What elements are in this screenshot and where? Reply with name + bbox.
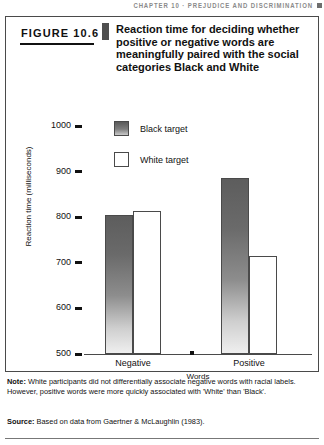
x-axis-line [84, 354, 312, 355]
square-marker-icon [317, 3, 322, 8]
y-tick-label: 1000 [31, 120, 71, 130]
bottom-rule [5, 438, 319, 439]
y-tick-mark [75, 216, 82, 219]
figure-source: Source: Based on data from Gaertner & Mc… [7, 417, 317, 427]
y-tick-label: 800 [31, 211, 71, 221]
y-tick-mark [75, 353, 82, 356]
bar-positive-black [221, 178, 249, 354]
y-tick-mark [75, 307, 82, 310]
legend-label: White target [140, 155, 189, 165]
figure-page: CHAPTER 10 · PREJUDICE AND DISCRIMINATIO… [0, 0, 324, 445]
source-prefix: Source: [7, 417, 35, 426]
bar-positive-white [249, 256, 277, 354]
chart-legend: Black targetWhite target [114, 118, 189, 180]
y-tick-label: 500 [31, 348, 71, 358]
x-tick-label: Positive [214, 358, 284, 368]
note-text: White participants did not differentiall… [7, 377, 296, 396]
source-text: Based on data from Gaertner & McLaughlin… [35, 417, 205, 426]
bar-negative-white [133, 211, 161, 354]
y-tick-label: 900 [31, 166, 71, 176]
y-tick-mark [75, 261, 82, 264]
x-tick-label: Negative [98, 358, 168, 368]
legend-label: Black target [140, 124, 188, 134]
figure-box: FIGURE 10.6 Reaction time for deciding w… [5, 16, 319, 372]
legend-swatch-icon [114, 121, 129, 136]
y-axis-title: Reaction time (milliseconds) [24, 127, 33, 267]
figure-note: Note: White participants did not differe… [7, 377, 317, 397]
legend-item: White target [114, 149, 189, 170]
y-tick-label: 700 [31, 257, 71, 267]
note-prefix: Note: [7, 377, 26, 386]
y-tick-mark [75, 125, 82, 128]
bar-negative-black [105, 215, 133, 354]
running-head-text: CHAPTER 10 · PREJUDICE AND DISCRIMINATIO… [133, 2, 313, 8]
bar-chart: Reaction time (milliseconds) 50060070080… [6, 17, 318, 371]
legend-swatch-icon [114, 152, 129, 167]
y-tick-label: 600 [31, 302, 71, 312]
running-head: CHAPTER 10 · PREJUDICE AND DISCRIMINATIO… [0, 1, 324, 10]
legend-item: Black target [114, 118, 189, 139]
y-tick-mark [75, 170, 82, 173]
x-axis-center-tick [190, 351, 194, 355]
